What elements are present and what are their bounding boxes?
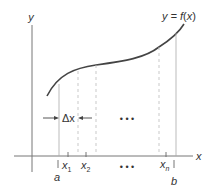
label-a: a [54,171,60,183]
function-curve [47,24,184,96]
label-x2: x2 [80,159,91,173]
curve-label: y = f(x) [161,10,196,22]
label-x1: x1 [61,159,72,173]
label-xn: xn [159,158,170,172]
label-b: b [171,175,177,187]
ellipsis-mid: • • • [120,114,134,124]
ellipsis-axis: • • • [120,162,134,172]
riemann-diagram: y x y = f(x) Δx • • • • • • a b x1 x2 xn [0,0,211,195]
x-axis-label: x [195,150,202,162]
delta-x-label: Δx [62,112,75,124]
arrowhead-left-icon [78,116,83,120]
arrowhead-right-icon [54,116,59,120]
y-axis-label: y [27,11,35,23]
